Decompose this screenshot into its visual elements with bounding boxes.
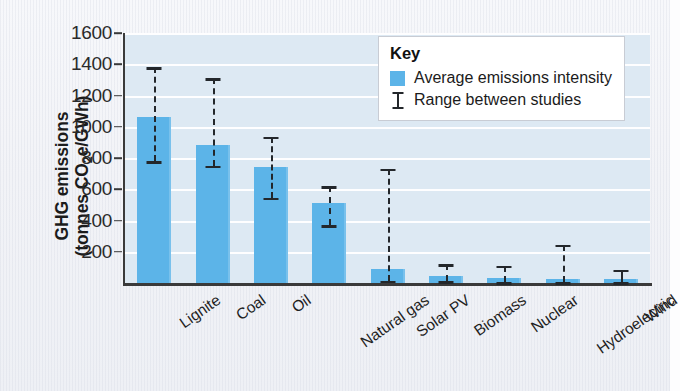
error-bar-icon	[390, 92, 405, 109]
error-bar-cap-lower	[497, 282, 512, 284]
x-tick-label: Lignite	[176, 291, 224, 332]
error-bar	[504, 266, 506, 282]
error-bar	[446, 264, 448, 281]
error-bar	[563, 245, 565, 283]
y-tick-label: 800	[46, 147, 112, 169]
error-bar-cap-lower	[205, 166, 220, 168]
y-tick-label: 400	[46, 210, 112, 232]
legend-swatch-icon	[390, 71, 405, 86]
legend-entry-range: Range between studies	[390, 89, 612, 111]
error-bar-cap-upper	[613, 270, 628, 272]
error-bar-cap-lower	[438, 281, 453, 283]
x-axis-line	[123, 283, 652, 286]
y-tick-mark	[114, 220, 122, 222]
x-tick-label: Nuclear	[528, 291, 582, 336]
gridline	[125, 33, 650, 35]
gridline	[125, 127, 650, 129]
error-bar	[154, 67, 156, 161]
y-tick-label: 1200	[46, 85, 112, 107]
error-bar-cap-upper	[497, 266, 512, 268]
error-bar-cap-lower	[613, 282, 628, 284]
x-tick-label: Oil	[288, 291, 314, 317]
y-tick-mark	[114, 126, 122, 128]
legend-entry-average: Average emissions intensity	[390, 67, 612, 89]
chart-legend: Key Average emissions intensity Range be…	[378, 36, 625, 121]
error-bar-cap-upper	[555, 245, 570, 247]
y-tick-mark	[114, 63, 122, 65]
legend-label-range: Range between studies	[414, 91, 581, 109]
y-tick-label: 1000	[46, 116, 112, 138]
error-bar-cap-upper	[263, 137, 278, 139]
error-bar-cap-lower	[555, 282, 570, 284]
error-bar-cap-lower	[380, 281, 395, 283]
legend-label-average: Average emissions intensity	[414, 69, 612, 87]
y-tick-mark	[114, 157, 122, 159]
error-bar-cap-lower	[263, 198, 278, 200]
error-bar-cap-upper	[322, 186, 337, 188]
error-bar-cap-lower	[322, 225, 337, 227]
error-bar	[388, 169, 390, 281]
y-tick-label: 600	[46, 178, 112, 200]
y-tick-label: 1600	[46, 22, 112, 44]
error-bar-cap-upper	[438, 264, 453, 266]
error-bar	[271, 137, 273, 198]
error-bar-cap-upper	[205, 78, 220, 80]
y-tick-mark	[114, 188, 122, 190]
y-tick-mark	[114, 32, 122, 34]
x-tick-label: Coal	[232, 291, 268, 324]
error-bar-cap-upper	[147, 67, 162, 69]
error-bar-cap-upper	[380, 169, 395, 171]
legend-title: Key	[390, 44, 612, 63]
y-axis-ticks: 2004006008001000120014001600	[46, 0, 112, 391]
y-tick-label: 1400	[46, 53, 112, 75]
error-bar	[213, 78, 215, 166]
y-tick-mark	[114, 251, 122, 253]
x-tick-label: Biomass	[471, 291, 530, 340]
y-tick-label: 200	[46, 241, 112, 263]
y-tick-mark	[114, 95, 122, 97]
error-bar	[329, 186, 331, 225]
error-bar-cap-lower	[147, 161, 162, 163]
